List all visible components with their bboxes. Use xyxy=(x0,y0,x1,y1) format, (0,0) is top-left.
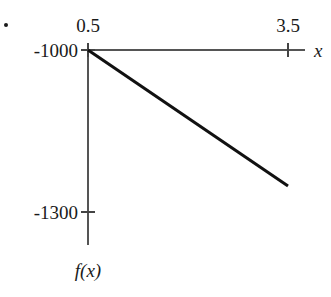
chart-figure: 0.5 3.5 -1000 -1300 x f(x) xyxy=(0,0,331,297)
x-tick-label-0: 0.5 xyxy=(76,16,100,35)
data-line-series-0 xyxy=(88,50,288,186)
y-axis-label: f(x) xyxy=(75,261,101,280)
y-tick-label-0: -1000 xyxy=(34,41,78,60)
x-axis-label: x xyxy=(314,41,322,60)
x-tick-label-1: 3.5 xyxy=(276,16,300,35)
y-tick-label-1: -1300 xyxy=(34,203,78,222)
